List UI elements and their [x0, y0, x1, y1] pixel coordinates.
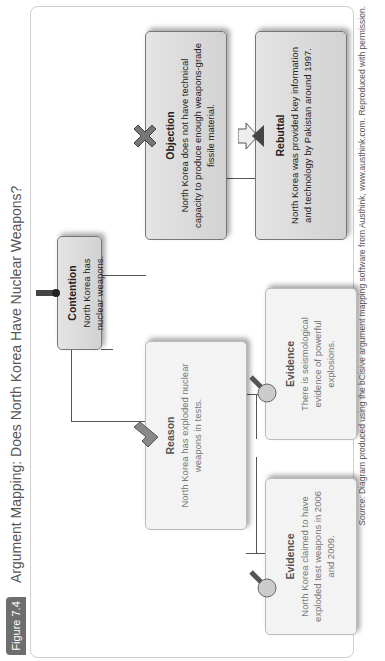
checkmark-icon	[132, 421, 160, 449]
figure-title: Argument Mapping: Does North Korea Have …	[6, 186, 26, 583]
figure-page: Figure 7.4 Argument Mapping: Does North …	[0, 0, 385, 661]
connector-contention-down	[101, 349, 113, 350]
connector-evidence-claim-h	[256, 457, 257, 554]
evidence-seismic-node[interactable]: Evidence There is seismological evidence…	[265, 288, 357, 440]
reason-label: Reason	[164, 342, 176, 529]
connector-rebuttal	[226, 178, 256, 179]
objection-label: Objection	[164, 32, 176, 239]
magnifier-icon	[248, 569, 278, 599]
rebuttal-node[interactable]: Rebuttal North Korea was provided key in…	[255, 31, 347, 240]
source-prefix: Source:	[357, 496, 367, 525]
evidence-claim-text: North Korea claimed to have exploded tes…	[298, 479, 337, 634]
figure-tag: Figure 7.4	[6, 597, 26, 655]
reason-text: North Korea has exploded nuclear weapons…	[178, 342, 204, 529]
contention-node[interactable]: Contention North Korea has nuclear weapo…	[57, 236, 102, 350]
rebuttal-text: North Korea was provided key information…	[288, 32, 314, 239]
figure-header: Figure 7.4 Argument Mapping: Does North …	[0, 0, 30, 661]
contention-text: North Korea has nuclear weapons.	[80, 237, 106, 349]
evidence-seismic-label: Evidence	[284, 289, 296, 439]
objection-node[interactable]: Objection North Korea does not have tech…	[145, 31, 227, 240]
reason-node[interactable]: Reason North Korea has exploded nuclear …	[145, 341, 247, 530]
connector-reason-h	[71, 350, 72, 422]
flag-icon	[36, 287, 62, 299]
x-cross-icon	[130, 121, 160, 151]
evidence-claim-node[interactable]: Evidence North Korea claimed to have exp…	[265, 478, 357, 635]
magnifier-icon	[248, 374, 278, 404]
source-note: Source: Diagram produced using the bCisi…	[357, 6, 367, 526]
rebuttal-arrow-icon	[238, 123, 268, 149]
evidence-claim-label: Evidence	[284, 479, 296, 634]
evidence-seismic-text: There is seismological evidence of power…	[298, 289, 337, 439]
objection-text: North Korea does not have technical capa…	[178, 32, 217, 239]
contention-label: Contention	[66, 237, 78, 349]
source-text: Diagram produced using the bCisive argum…	[357, 6, 367, 494]
rebuttal-label: Rebuttal	[274, 32, 286, 239]
